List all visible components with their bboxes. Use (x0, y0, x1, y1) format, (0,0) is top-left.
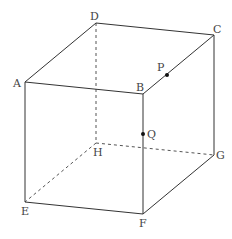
label-c: C (213, 23, 221, 36)
label-d: D (90, 10, 99, 23)
edge-ab (25, 82, 143, 94)
edge-he (25, 143, 96, 202)
edge-cd (96, 23, 214, 35)
label-g: G (216, 149, 225, 162)
edge-ef (25, 202, 143, 214)
label-h: H (93, 146, 103, 159)
edge-hg (96, 143, 214, 155)
edge-da (25, 23, 96, 82)
label-f: F (139, 217, 147, 230)
point-p (165, 73, 169, 77)
edge-fg (143, 155, 214, 214)
point-q (141, 132, 145, 136)
label-e: E (21, 205, 29, 218)
label-a: A (12, 77, 22, 90)
label-b: B (136, 81, 144, 94)
cube-diagram: D A B C P Q H G E F (0, 0, 232, 239)
label-p: P (157, 61, 165, 74)
edge-bc (143, 35, 214, 94)
label-q: Q (147, 128, 156, 141)
